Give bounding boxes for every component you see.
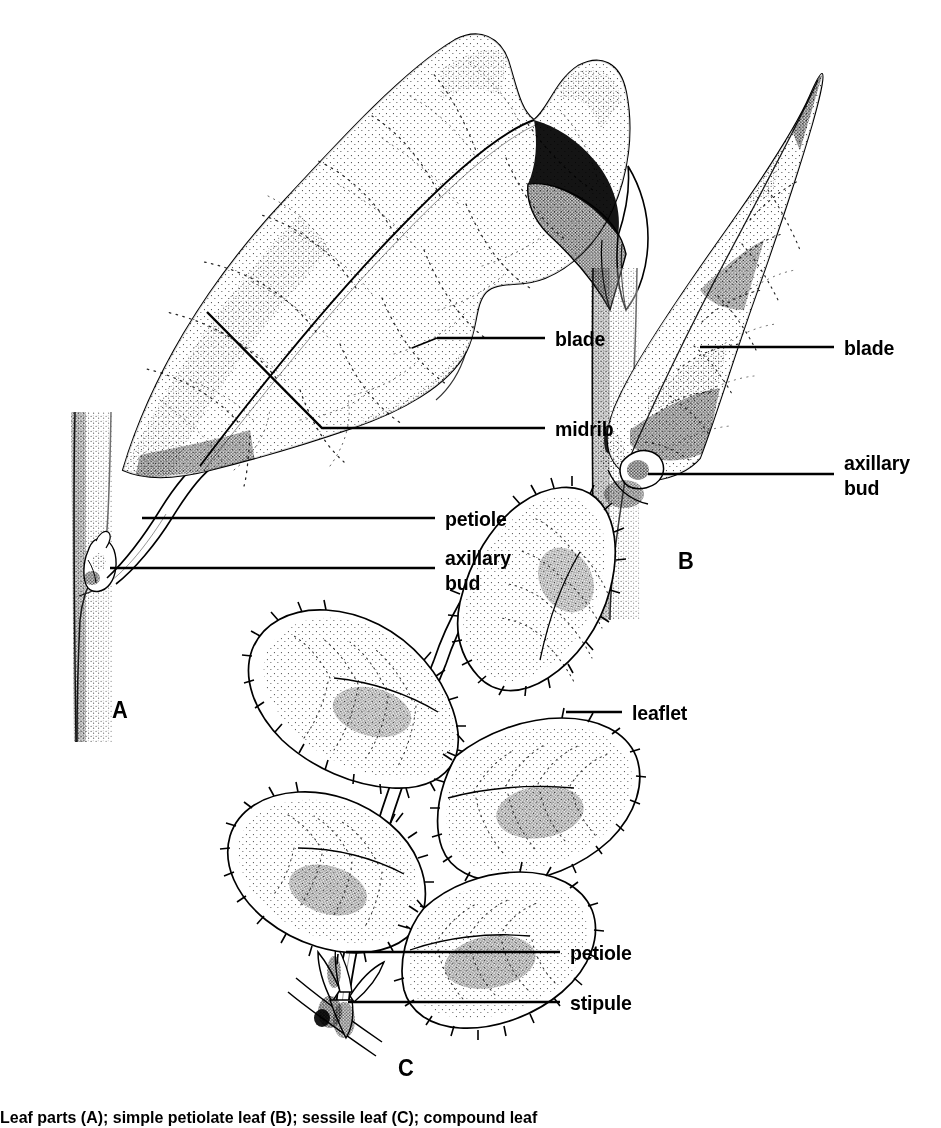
panel-letter-a: A <box>112 697 128 724</box>
panel-c-leaflet-lower-left <box>220 782 434 964</box>
panel-c-illustration <box>220 476 646 1056</box>
panel-letter-b: B <box>678 548 694 575</box>
label-axillary-bud-a-line2: bud <box>445 570 480 595</box>
label-leaflet-c: leaflet <box>632 700 687 725</box>
label-petiole-a: petiole <box>445 506 507 531</box>
figure-caption: Leaf parts (A); simple petiolate leaf (B… <box>0 1108 885 1128</box>
panel-c-leaflet-right <box>430 708 646 892</box>
panel-b-illustration <box>586 70 840 624</box>
label-blade-a: blade <box>555 326 605 351</box>
label-blade-b: blade <box>844 335 894 360</box>
label-axillary-bud-b-line2: bud <box>844 475 879 500</box>
label-axillary-bud-a-line1: axillary <box>445 545 511 570</box>
panel-letter-c: C <box>398 1055 414 1082</box>
label-petiole-c: petiole <box>570 940 632 965</box>
panel-c-leaflet-upper-left <box>242 600 468 798</box>
label-axillary-bud-b-line1: axillary <box>844 450 910 475</box>
leaf-morphology-figure: blade midrib petiole axillary bud blade … <box>0 0 941 1128</box>
label-midrib-a: midrib <box>555 416 614 441</box>
label-stipule-c: stipule <box>570 990 632 1015</box>
panel-b-blade <box>600 70 840 490</box>
